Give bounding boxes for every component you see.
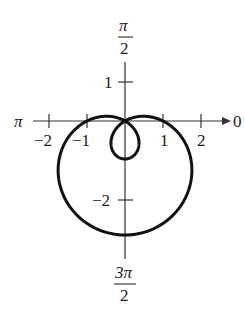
svg-text:2: 2 [120,39,129,58]
x-tick-label: 1 [160,131,169,150]
x-tick-label: −1 [72,131,90,150]
polar-graph: −2 −1 1 2 1 −2 π 0 π 2 3π 2 [0,0,245,313]
svg-text:π: π [119,16,128,35]
svg-text:2: 2 [120,286,129,305]
angle-label-3pi-over-2: 3π 2 [114,263,136,305]
axis-arrowhead [222,117,231,125]
angle-label-zero: 0 [233,112,242,131]
x-tick-label: 2 [197,131,206,150]
x-tick-label: −2 [34,131,52,150]
y-tick-label: −2 [92,191,110,210]
svg-text:3π: 3π [114,263,133,282]
y-tick-label: 1 [104,73,113,92]
angle-label-pi-over-2: π 2 [118,16,133,58]
angle-label-pi: π [14,112,23,131]
